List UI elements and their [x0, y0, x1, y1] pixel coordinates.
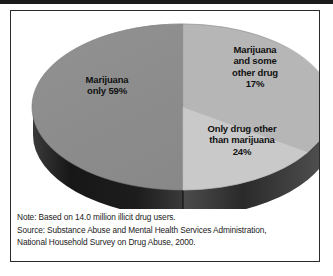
- footnote-note-line: Note: Based on 14.0 million illicit drug…: [17, 211, 313, 224]
- figure-footnote: Note: Based on 14.0 million illicit drug…: [17, 211, 313, 249]
- pie-label-marijuana-only-line1: Marijuana: [55, 74, 159, 85]
- pie-label-other-drug-only-line2: than marijuana: [179, 134, 305, 145]
- pie-chart-graphic: [11, 11, 319, 209]
- footnote-source-line2: National Household Survey on Drug Abuse,…: [17, 236, 313, 249]
- footnote-source-line1: Source: Substance Abuse and Mental Healt…: [17, 224, 313, 237]
- pie-label-marijuana-plus-other-line4: 17%: [207, 78, 303, 89]
- figure-frame: Marijuana only 59% Marijuana and some ot…: [10, 10, 320, 262]
- pie-chart: Marijuana only 59% Marijuana and some ot…: [11, 11, 319, 209]
- pie-label-marijuana-only: Marijuana only 59%: [55, 74, 159, 97]
- pie-label-other-drug-only-line1: Only drug other: [179, 123, 305, 134]
- pie-label-marijuana-plus-other-line1: Marijuana: [207, 44, 303, 55]
- top-rule: [0, 0, 333, 4]
- pie-label-other-drug-only: Only drug other than marijuana 24%: [179, 123, 305, 157]
- pie-label-marijuana-only-line2: only 59%: [55, 85, 159, 96]
- pie-label-marijuana-plus-other-line3: other drug: [207, 67, 303, 78]
- pie-label-marijuana-plus-other-line2: and some: [207, 55, 303, 66]
- pie-label-marijuana-plus-other: Marijuana and some other drug 17%: [207, 44, 303, 90]
- pie-label-other-drug-only-line3: 24%: [179, 146, 305, 157]
